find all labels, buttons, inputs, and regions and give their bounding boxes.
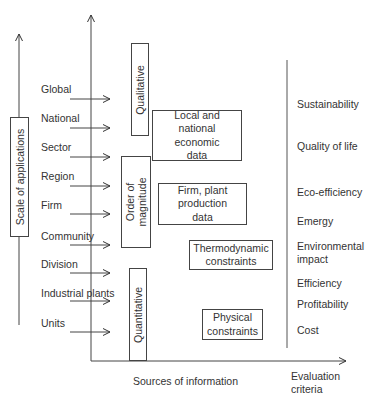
scale-label-division: Division — [41, 258, 78, 271]
x-axis-label: Sources of information — [133, 375, 238, 388]
criterion-environmental-impact: Environmental impact — [297, 240, 364, 266]
quantitative-label: Quantitative — [132, 286, 145, 342]
physical-constraints-label: Physical constraints — [207, 311, 258, 337]
criterion-emergy: Emergy — [297, 215, 333, 228]
criterion-efficiency: Efficiency — [297, 277, 342, 290]
local-national-economic-data-box: Local and national economic data — [152, 110, 242, 161]
criterion-eco-efficiency: Eco-efficiency — [297, 186, 362, 199]
order-of-magnitude-box: Order of magnitude — [121, 156, 151, 248]
qualitative-box: Qualitative — [131, 43, 149, 136]
thermodynamic-constraints-box: Thermodynamic constraints — [189, 240, 273, 270]
criterion-sustainability: Sustainability — [297, 98, 359, 111]
criterion-cost: Cost — [297, 324, 319, 337]
scale-label-region: Region — [41, 170, 74, 183]
firm-plant-production-data-label: Firm, plant production data — [178, 184, 228, 223]
scale-label-industrial-plants: Industrial plants — [41, 287, 115, 300]
local-national-economic-data-label: Local and national economic data — [174, 109, 220, 162]
scale-label-national: National — [41, 112, 80, 125]
quantitative-box: Quantitative — [129, 268, 147, 361]
criterion-profitability: Profitability — [297, 298, 348, 311]
scale-of-applications-box: Scale of applications — [10, 117, 29, 237]
scale-label-firm: Firm — [41, 199, 62, 212]
qualitative-label: Qualitative — [134, 65, 147, 115]
evaluation-criteria-label: Evaluation criteria — [291, 370, 340, 396]
order-of-magnitude-label: Order of magnitude — [124, 177, 148, 226]
scale-label-units: Units — [41, 317, 65, 330]
firm-plant-production-data-box: Firm, plant production data — [158, 183, 247, 225]
thermodynamic-constraints-label: Thermodynamic constraints — [193, 242, 268, 268]
scale-of-applications-label: Scale of applications — [13, 129, 26, 225]
criterion-quality-of-life: Quality of life — [297, 140, 358, 153]
scale-label-sector: Sector — [41, 141, 71, 154]
scale-label-global: Global — [41, 83, 71, 96]
physical-constraints-box: Physical constraints — [202, 309, 263, 340]
scale-label-community: Community — [41, 230, 94, 243]
